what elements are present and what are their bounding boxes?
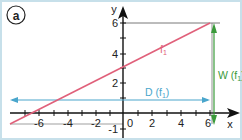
y-axis-label: y	[111, 3, 117, 15]
x-tick-label: -2	[91, 117, 101, 129]
function-graph: a -6 -4 -2 0 2	[2, 2, 242, 140]
y-tick-label: 4	[112, 48, 118, 60]
x-axis: -6 -4 -2 0 2 4 6 x	[10, 108, 240, 130]
x-tick-label: 2	[149, 117, 155, 129]
svg-text:a: a	[13, 9, 20, 23]
x-tick-label: -4	[63, 117, 73, 129]
y-tick-label: 6	[112, 17, 118, 29]
x-tick-label: -6	[34, 117, 44, 129]
y-axis: 6 4 2 -1 y	[108, 3, 128, 138]
y-tick-label: -1	[108, 123, 118, 135]
range-label: W (f1)	[218, 69, 242, 82]
series-f1: f1	[10, 23, 210, 124]
domain-label: D (f1)	[145, 86, 169, 99]
chart-panel: a -6 -4 -2 0 2	[0, 0, 242, 140]
y-tick-label: 2	[112, 77, 118, 89]
panel-label: a	[7, 6, 25, 24]
x-axis-label: x	[227, 118, 233, 130]
x-tick-label: 0	[127, 117, 133, 129]
domain-arrow: D (f1)	[10, 86, 210, 103]
range-arrow: W (f1)	[211, 23, 242, 125]
x-tick-label: 4	[178, 117, 184, 129]
x-tick-label: 6	[205, 117, 211, 129]
